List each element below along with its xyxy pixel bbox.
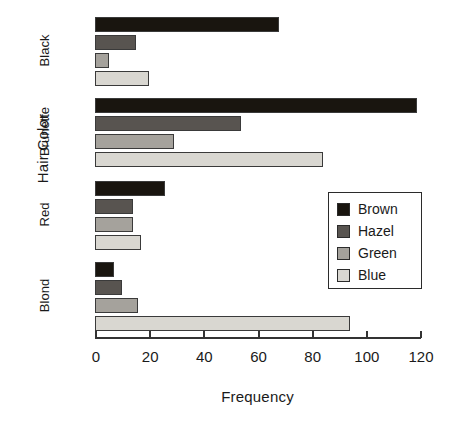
legend-item-blue: Blue bbox=[337, 266, 386, 284]
legend-swatch-blue bbox=[337, 269, 350, 282]
x-tick-80 bbox=[312, 331, 314, 338]
x-axis-title: Frequency bbox=[95, 388, 420, 405]
bar-blond-green bbox=[95, 298, 138, 313]
chart-canvas: Hair Color BlackBrunetteRedBlond 0204060… bbox=[0, 0, 455, 430]
legend-swatch-hazel bbox=[337, 225, 350, 238]
legend-label-brown: Brown bbox=[358, 202, 398, 216]
bar-black-brown bbox=[95, 17, 279, 32]
legend-item-hazel: Hazel bbox=[337, 222, 394, 240]
legend-swatch-green bbox=[337, 247, 350, 260]
bar-black-hazel bbox=[95, 35, 136, 50]
y-axis-label-red: Red bbox=[37, 172, 52, 256]
x-tick-40 bbox=[203, 331, 205, 338]
legend-label-hazel: Hazel bbox=[358, 224, 394, 238]
x-tick-label-100: 100 bbox=[337, 348, 397, 365]
x-tick-label-80: 80 bbox=[283, 348, 343, 365]
legend-label-blue: Blue bbox=[358, 268, 386, 282]
x-tick-label-40: 40 bbox=[174, 348, 234, 365]
x-tick-20 bbox=[149, 331, 151, 338]
x-tick-label-120: 120 bbox=[391, 348, 451, 365]
x-tick-0 bbox=[95, 331, 97, 338]
bar-brunette-green bbox=[95, 134, 174, 149]
bar-brunette-blue bbox=[95, 152, 323, 167]
bar-black-blue bbox=[95, 71, 149, 86]
x-tick-label-60: 60 bbox=[229, 348, 289, 365]
bar-black-green bbox=[95, 53, 109, 68]
bar-red-hazel bbox=[95, 199, 133, 214]
bar-brunette-brown bbox=[95, 98, 417, 113]
x-tick-60 bbox=[258, 331, 260, 338]
x-tick-label-20: 20 bbox=[120, 348, 180, 365]
bar-blond-blue bbox=[95, 316, 350, 331]
y-axis-label-brunette: Brunette bbox=[37, 89, 52, 173]
x-tick-100 bbox=[366, 331, 368, 338]
bar-red-blue bbox=[95, 235, 141, 250]
x-tick-label-0: 0 bbox=[66, 348, 126, 365]
bar-red-brown bbox=[95, 181, 165, 196]
y-axis-label-black: Black bbox=[37, 8, 52, 92]
legend-box: BrownHazelGreenBlue bbox=[328, 192, 422, 289]
legend-item-brown: Brown bbox=[337, 200, 398, 218]
bar-blond-brown bbox=[95, 262, 114, 277]
x-tick-120 bbox=[420, 331, 422, 338]
y-axis-label-blond: Blond bbox=[37, 253, 52, 337]
legend-label-green: Green bbox=[358, 246, 397, 260]
bar-blond-hazel bbox=[95, 280, 122, 295]
bar-brunette-hazel bbox=[95, 116, 241, 131]
legend-swatch-brown bbox=[337, 203, 350, 216]
bar-red-green bbox=[95, 217, 133, 232]
legend-item-green: Green bbox=[337, 244, 397, 262]
